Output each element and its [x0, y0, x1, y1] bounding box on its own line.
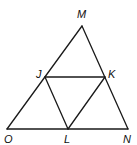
triangle-diagram: M J K O L N: [0, 0, 137, 145]
label-M: M: [77, 8, 87, 20]
label-K: K: [108, 68, 116, 80]
label-N: N: [123, 133, 131, 145]
segment-JL: [45, 77, 68, 129]
label-O: O: [4, 133, 13, 145]
label-L: L: [64, 133, 70, 145]
label-J: J: [35, 68, 42, 80]
segment-KL: [68, 77, 105, 129]
